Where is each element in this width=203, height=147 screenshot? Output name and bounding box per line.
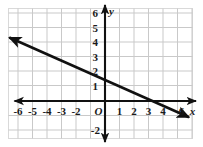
y-tick-label-6: 6 xyxy=(93,7,99,19)
x-tick-label--4: -4 xyxy=(42,105,52,117)
x-tick-label--3: -3 xyxy=(57,105,67,117)
y-tick-label-2: 2 xyxy=(93,65,99,77)
graph-canvas: -6 -5 -4 -3 -2 O 1 2 3 4 6 x 6 5 4 3 2 1… xyxy=(0,0,203,147)
y-tick-label-1: 1 xyxy=(93,80,99,92)
origin-label: O xyxy=(95,105,103,117)
y-tick-label-5: 5 xyxy=(93,22,99,34)
x-tick-label-1: 1 xyxy=(117,105,123,117)
x-tick-label-2: 2 xyxy=(131,105,137,117)
x-axis-label: x xyxy=(189,105,196,117)
x-tick-label-3: 3 xyxy=(146,105,152,117)
coordinate-plane-figure: -6 -5 -4 -3 -2 O 1 2 3 4 6 x 6 5 4 3 2 1… xyxy=(0,0,203,147)
y-tick-label-3: 3 xyxy=(93,51,99,63)
y-tick-label--2: -2 xyxy=(91,124,101,136)
y-axis-label: y xyxy=(107,5,114,17)
y-tick-label-4: 4 xyxy=(93,36,99,48)
x-tick-label--5: -5 xyxy=(28,105,38,117)
x-tick-label--2: -2 xyxy=(71,105,81,117)
x-tick-label--6: -6 xyxy=(13,105,23,117)
x-tick-label-6: 6 xyxy=(179,105,185,117)
figure-background xyxy=(0,0,203,147)
x-tick-label-4: 4 xyxy=(160,105,166,117)
